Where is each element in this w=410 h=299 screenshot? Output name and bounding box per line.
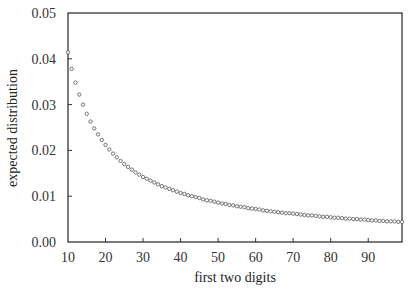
x-tick-label: 80 xyxy=(324,250,338,265)
data-point xyxy=(340,216,343,219)
plot-frame xyxy=(68,13,402,242)
data-point xyxy=(231,204,234,207)
data-point xyxy=(337,216,340,219)
data-point xyxy=(318,215,321,218)
data-point xyxy=(175,190,178,193)
data-point xyxy=(145,177,148,180)
x-tick-label: 40 xyxy=(174,250,188,265)
data-point xyxy=(359,218,362,221)
data-point xyxy=(367,218,370,221)
data-point xyxy=(160,184,163,187)
data-point xyxy=(250,207,253,210)
data-point xyxy=(276,211,279,214)
data-point xyxy=(198,196,201,199)
data-point xyxy=(100,138,103,141)
data-point xyxy=(284,211,287,214)
data-point xyxy=(374,219,377,222)
data-point xyxy=(314,214,317,217)
data-point xyxy=(344,217,347,220)
data-point xyxy=(213,200,216,203)
data-point xyxy=(321,215,324,218)
data-point xyxy=(239,205,242,208)
data-point xyxy=(329,216,332,219)
data-point xyxy=(355,217,358,220)
data-point xyxy=(243,205,246,208)
data-point xyxy=(201,198,204,201)
data-point xyxy=(224,202,227,205)
data-point xyxy=(119,159,122,162)
data-point xyxy=(393,220,396,223)
data-point xyxy=(108,148,111,151)
data-point xyxy=(70,67,73,70)
data-point xyxy=(138,173,141,176)
data-point xyxy=(389,220,392,223)
data-point xyxy=(280,211,283,214)
data-point xyxy=(134,171,137,174)
chart: 0.000.010.020.030.040.05 102030405060708… xyxy=(0,0,410,299)
data-point xyxy=(288,211,291,214)
data-point xyxy=(382,219,385,222)
data-point xyxy=(363,218,366,221)
y-tick-label: 0.00 xyxy=(32,235,57,250)
data-point xyxy=(333,216,336,219)
x-tick-label: 50 xyxy=(211,250,225,265)
data-point xyxy=(269,210,272,213)
x-tick-label: 20 xyxy=(99,250,113,265)
data-point xyxy=(156,183,159,186)
data-point xyxy=(190,195,193,198)
y-tick-label: 0.02 xyxy=(32,143,57,158)
x-tick-label: 10 xyxy=(61,250,75,265)
data-point xyxy=(179,191,182,194)
data-point xyxy=(397,220,400,223)
data-point xyxy=(325,215,328,218)
data-point xyxy=(183,192,186,195)
data-point xyxy=(81,103,84,106)
y-axis: 0.000.010.020.030.040.05 xyxy=(32,6,73,250)
data-point xyxy=(370,219,373,222)
y-tick-label: 0.03 xyxy=(32,98,57,113)
data-points xyxy=(66,51,403,224)
data-point xyxy=(171,189,174,192)
x-axis-label: first two digits xyxy=(194,270,276,285)
data-point xyxy=(295,212,298,215)
data-point xyxy=(123,162,126,165)
data-point xyxy=(168,187,171,190)
data-point xyxy=(299,213,302,216)
data-point xyxy=(352,217,355,220)
data-point xyxy=(149,179,152,182)
data-point xyxy=(228,203,231,206)
y-tick-label: 0.05 xyxy=(32,6,57,21)
data-point xyxy=(93,127,96,130)
data-point xyxy=(209,199,212,202)
x-tick-label: 30 xyxy=(136,250,150,265)
data-point xyxy=(111,152,114,155)
data-point xyxy=(104,143,107,146)
data-point xyxy=(310,214,313,217)
data-point xyxy=(273,210,276,213)
data-point xyxy=(385,220,388,223)
data-point xyxy=(265,209,268,212)
data-point xyxy=(216,201,219,204)
data-point xyxy=(74,81,77,84)
data-point xyxy=(164,186,167,189)
y-tick-label: 0.04 xyxy=(32,52,57,67)
x-tick-label: 90 xyxy=(361,250,375,265)
data-point xyxy=(235,205,238,208)
data-point xyxy=(303,213,306,216)
data-point xyxy=(306,214,309,217)
data-point xyxy=(153,181,156,184)
data-point xyxy=(348,217,351,220)
data-point xyxy=(291,212,294,215)
y-axis-label: expected distribution xyxy=(5,69,20,187)
data-point xyxy=(66,51,69,54)
data-point xyxy=(130,168,133,171)
data-point xyxy=(126,165,129,168)
data-point xyxy=(261,209,264,212)
data-point xyxy=(254,207,257,210)
data-point xyxy=(89,120,92,123)
data-point xyxy=(96,133,99,136)
data-point xyxy=(78,93,81,96)
x-tick-label: 60 xyxy=(249,250,263,265)
data-point xyxy=(194,195,197,198)
x-tick-label: 70 xyxy=(286,250,300,265)
